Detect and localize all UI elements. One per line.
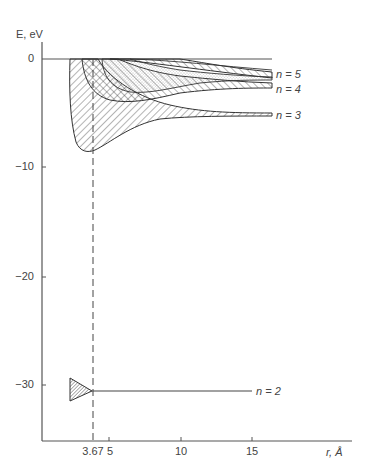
y-tick-label-0: 0: [4, 52, 34, 64]
x-tick-label-5: 5: [95, 445, 125, 457]
x-tick-label-15: 15: [237, 445, 267, 457]
label-n3: n = 3: [276, 109, 301, 121]
label-n2: n = 2: [256, 385, 281, 397]
label-n4: n = 4: [276, 83, 301, 95]
y-axis-label-text: E, eV: [16, 28, 43, 40]
y-tick-label-neg20: −20: [4, 270, 34, 282]
n2-band: [70, 378, 92, 401]
label-n5: n = 5: [276, 68, 301, 80]
y-tick-label-neg30: −30: [4, 378, 34, 390]
x-axis-label: r, Å: [326, 446, 343, 458]
x-tick-label-10: 10: [166, 445, 196, 457]
energy-level-chart: [0, 0, 370, 475]
y-tick-label-neg10: −10: [4, 160, 34, 172]
